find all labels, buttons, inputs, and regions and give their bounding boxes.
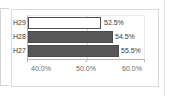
category-label-h29: H29 <box>12 16 27 30</box>
bar-h29[interactable] <box>28 17 101 29</box>
data-label-h29: 52.5% <box>104 16 124 30</box>
worksheet-cell-left <box>0 8 9 86</box>
category-label-h27: H27 <box>12 44 27 58</box>
x-axis-tick-60 <box>144 59 145 62</box>
data-label-h27: 55.5% <box>121 44 141 58</box>
x-axis-tick-50 <box>86 59 87 62</box>
x-tick-label-50: 50.0% <box>76 65 96 72</box>
data-label-h28: 54.5% <box>115 30 135 44</box>
bar-h27[interactable] <box>28 45 119 57</box>
bar-row <box>28 16 145 30</box>
x-axis-tick-40 <box>27 59 28 62</box>
bar-h28[interactable] <box>28 31 113 43</box>
category-axis-labels: H29 H28 H27 <box>12 16 27 59</box>
category-label-h28: H28 <box>12 30 27 44</box>
spreadsheet-background: H29 H28 H27 52.5% 54.5% 55.5% 40.0% <box>0 0 170 96</box>
chart-plot-wrapper: H29 H28 H27 52.5% 54.5% 55.5% 40.0% <box>12 10 160 88</box>
x-axis-labels: 40.0% 50.0% 60.0% <box>27 65 145 77</box>
x-tick-label-60: 60.0% <box>122 65 142 72</box>
x-tick-label-40: 40.0% <box>31 65 51 72</box>
chart-object[interactable]: H29 H28 H27 52.5% 54.5% 55.5% 40.0% <box>11 9 159 87</box>
worksheet-cell-right <box>164 0 170 96</box>
